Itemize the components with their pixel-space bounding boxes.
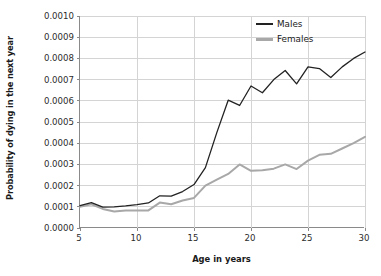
chart-legend: MalesFemales [256,18,313,45]
x-axis-title: Age in years [79,254,364,264]
y-axis-title: Probability of dying in the next year [2,4,18,232]
y-tick-label: 0.0006 [28,96,74,106]
legend-label: Females [277,34,313,44]
legend-label: Males [277,19,302,29]
y-tick-label: 0.0005 [28,117,74,127]
y-tick-label: 0.0010 [28,11,74,21]
y-tick-label: 0.0000 [28,223,74,233]
legend-item-males[interactable]: Males [256,18,313,30]
chart-container: Probability of dying in the next year 0.… [0,0,381,276]
y-tick-label: 0.0009 [28,32,74,42]
x-tick-label: 10 [131,233,142,243]
x-axis-tick-labels: 51015202530 [79,233,364,247]
y-tick-label: 0.0004 [28,138,74,148]
x-tick-label: 30 [359,233,370,243]
series-lines [80,16,365,228]
series-line-females [80,137,365,212]
y-tick-label: 0.0003 [28,159,74,169]
x-tick-label: 25 [302,233,313,243]
x-tick-label: 15 [188,233,199,243]
x-tick-label: 20 [245,233,256,243]
x-tick-label: 5 [76,233,81,243]
y-axis-tick-labels: 0.00000.00010.00020.00030.00040.00050.00… [22,16,74,228]
legend-item-females[interactable]: Females [256,33,313,45]
y-tick-label: 0.0001 [28,202,74,212]
y-tick-label: 0.0007 [28,75,74,85]
y-tick-label: 0.0008 [28,53,74,63]
legend-swatch-icon [256,23,273,25]
y-tick-label: 0.0002 [28,181,74,191]
plot-area [79,16,364,228]
series-line-males [80,52,365,207]
legend-swatch-icon [256,38,273,41]
